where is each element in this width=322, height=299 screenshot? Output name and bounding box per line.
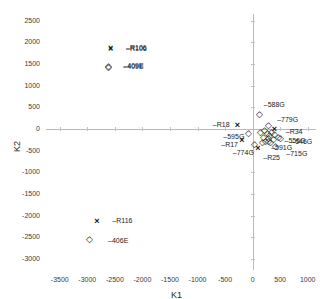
y-tick-mark: [251, 107, 255, 108]
x-tick-mark: [87, 127, 88, 131]
y-tick-label: 0: [8, 125, 40, 132]
y-tick-mark: [251, 259, 255, 260]
x-tick-mark: [280, 127, 281, 131]
cross-marker-icon: ×: [94, 217, 99, 226]
y-tick-mark: [251, 216, 255, 217]
point-label: –R34: [286, 128, 303, 135]
x-tick-mark: [60, 127, 61, 131]
y-tick-mark: [251, 42, 255, 43]
legend-label: –409E: [123, 63, 143, 70]
diamond-marker-icon: ◇: [256, 110, 263, 119]
x-tick-mark: [198, 127, 199, 131]
legend-label: –R106: [126, 45, 147, 52]
y-axis-title: K2: [12, 141, 22, 152]
diamond-marker-icon: ◇: [251, 140, 258, 149]
y-tick-label: 1500: [8, 60, 40, 67]
diamond-marker-icon: ◇: [86, 235, 93, 244]
cross-marker-icon: ×: [235, 121, 240, 130]
cross-marker-icon: ×: [108, 44, 113, 54]
x-tick-mark: [225, 127, 226, 131]
diamond-marker-icon: ◇: [259, 138, 266, 147]
x-tick-mark: [142, 127, 143, 131]
y-tick-label: 500: [8, 103, 40, 110]
point-label: –R25: [263, 154, 280, 161]
x-tick-label: 1000: [288, 276, 322, 283]
x-tick-mark: [308, 127, 309, 131]
y-tick-label: -1000: [8, 168, 40, 175]
y-tick-label: 2500: [8, 17, 40, 24]
point-label: –R18: [213, 121, 230, 128]
y-tick-label: -1500: [8, 190, 40, 197]
diamond-marker-icon: ◇: [245, 129, 252, 138]
y-tick-label: 1000: [8, 82, 40, 89]
y-tick-mark: [251, 194, 255, 195]
scatter-plot: -3000-2500-2000-1500-1000-50005001000150…: [0, 0, 322, 299]
point-label: –595G: [223, 133, 244, 140]
x-tick-mark: [115, 127, 116, 131]
y-tick-mark: [251, 237, 255, 238]
point-label: –588G: [264, 101, 285, 108]
y-tick-mark: [251, 172, 255, 173]
point-label: –774G: [233, 149, 254, 156]
y-tick-mark: [251, 64, 255, 65]
x-tick-mark: [170, 127, 171, 131]
y-tick-label: 2000: [8, 38, 40, 45]
y-tick-label: -2500: [8, 233, 40, 240]
y-tick-label: -3000: [8, 255, 40, 262]
y-tick-mark: [251, 86, 255, 87]
point-label: –591G: [271, 144, 292, 151]
y-tick-mark: [251, 21, 255, 22]
y-tick-label: -2000: [8, 212, 40, 219]
point-label: –R17: [221, 141, 238, 148]
point-label: –406E: [108, 237, 128, 244]
x-axis-title: K1: [171, 290, 182, 299]
point-label: –779G: [277, 116, 298, 123]
point-label: –715G: [286, 150, 307, 157]
diamond-marker-icon: ◇: [105, 62, 112, 72]
point-label: –556G: [285, 137, 306, 144]
point-label: –R116: [112, 217, 132, 224]
